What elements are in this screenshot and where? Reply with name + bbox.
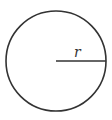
circle-diagram: r: [0, 0, 112, 120]
